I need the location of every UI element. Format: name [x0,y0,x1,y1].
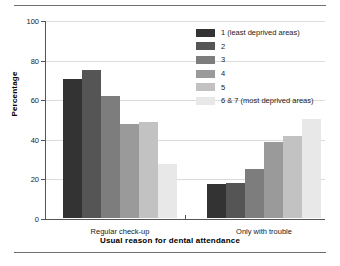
y-tick-label-60: 60 [31,96,39,105]
legend-swatch-icon-6 [196,97,215,105]
tick-mark-100 [41,21,45,22]
y-tick-label-0: 0 [35,215,39,224]
legend-label-2: 2 [221,42,225,51]
legend-label-3: 3 [221,55,225,64]
bar-g1-s2[interactable] [82,70,101,219]
y-axis-title: Percentage [10,71,19,116]
legend-item-1[interactable]: 1 (least deprived areas) [196,26,314,40]
bar-g2-s6[interactable] [302,119,321,218]
legend-swatch-icon-5 [196,83,215,91]
legend-item-3[interactable]: 3 [196,53,314,67]
bar-g1-s3[interactable] [101,96,120,218]
legend-label-1: 1 (least deprived areas) [221,28,300,37]
tick-mark-80 [41,61,45,62]
x-axis-title: Usual reason for dental attendance [0,236,340,245]
legend-swatch-icon-1 [196,29,215,37]
x-axis-label-1: Regular check-up [91,227,150,236]
bar-g2-s3[interactable] [245,169,264,219]
bar-g2-s2[interactable] [226,183,245,218]
bar-g2-s4[interactable] [264,142,283,218]
legend-swatch-icon-4 [196,70,215,78]
legend-item-5[interactable]: 5 [196,80,314,94]
figure-container: Percentage Usual reason for dental atten… [0,0,340,266]
legend-label-5: 5 [221,83,225,92]
tick-mark-20 [41,179,45,180]
tick-mark-0 [41,219,45,220]
legend: 1 (least deprived areas)23456 & 7 (most … [196,26,314,108]
bar-g1-s4[interactable] [120,124,139,218]
legend-item-2[interactable]: 2 [196,40,314,54]
legend-item-6[interactable]: 6 & 7 (most deprived areas) [196,94,314,108]
bar-group-1 [63,20,177,218]
x-axis-group-divider [185,215,186,220]
y-tick-label-40: 40 [31,135,39,144]
y-tick-label-80: 80 [31,56,39,65]
legend-swatch-icon-3 [196,56,215,64]
bar-g1-s6[interactable] [158,164,177,218]
x-axis-label-2: Only with trouble [236,227,292,236]
y-axis-line [45,21,46,220]
y-tick-label-100: 100 [26,17,39,26]
bar-g2-s1[interactable] [207,184,226,218]
legend-label-6: 6 & 7 (most deprived areas) [221,96,314,105]
legend-label-4: 4 [221,69,225,78]
tick-mark-60 [41,100,45,101]
bar-g1-s1[interactable] [63,79,82,218]
bottom-rule [14,252,326,253]
legend-swatch-icon-2 [196,42,215,50]
bar-g2-s5[interactable] [283,136,302,218]
y-tick-label-20: 20 [31,175,39,184]
legend-item-4[interactable]: 4 [196,67,314,81]
bar-g1-s5[interactable] [139,122,158,218]
tick-mark-40 [41,140,45,141]
top-rule [14,5,326,6]
